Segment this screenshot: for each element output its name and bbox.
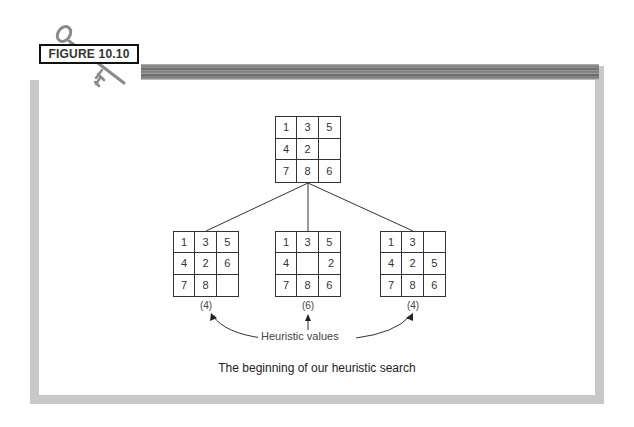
tile: 3 [297, 117, 318, 139]
tile-blank [297, 253, 318, 274]
tile: 2 [195, 253, 216, 274]
tile: 4 [276, 139, 297, 161]
tile-blank [424, 232, 445, 253]
puzzle-root: 1 3 5 4 2 7 8 6 [275, 116, 341, 183]
puzzle-child-middle: 1 3 5 4 2 7 8 6 [275, 231, 341, 297]
tile: 5 [424, 253, 445, 274]
heuristic-value-left: (4) [186, 300, 226, 311]
tile: 7 [276, 160, 297, 182]
tile: 1 [276, 232, 297, 253]
tile: 8 [195, 275, 216, 296]
tile: 4 [276, 253, 297, 274]
tile: 4 [174, 253, 195, 274]
tile: 3 [297, 232, 318, 253]
tile: 7 [381, 275, 402, 296]
tile: 8 [297, 160, 318, 182]
tile: 8 [297, 275, 318, 296]
tile: 4 [381, 253, 402, 274]
tile: 5 [217, 232, 238, 253]
heuristic-value-middle: (6) [288, 300, 328, 311]
tile: 6 [217, 253, 238, 274]
figure-label: FIGURE 10.10 [39, 44, 139, 64]
tile-blank [217, 275, 238, 296]
heuristic-value-right: (4) [393, 300, 433, 311]
tile: 5 [319, 232, 340, 253]
tile: 5 [319, 117, 340, 139]
tile: 6 [319, 275, 340, 296]
tile: 7 [174, 275, 195, 296]
tile: 2 [297, 139, 318, 161]
tile-blank [319, 139, 340, 161]
tile: 7 [276, 275, 297, 296]
tile: 3 [402, 232, 423, 253]
tile: 6 [319, 160, 340, 182]
tile: 3 [195, 232, 216, 253]
tile: 1 [276, 117, 297, 139]
tile: 8 [402, 275, 423, 296]
tile: 2 [319, 253, 340, 274]
puzzle-child-left: 1 3 5 4 2 6 7 8 [173, 231, 239, 297]
heuristic-values-label: Heuristic values [258, 330, 342, 342]
figure-caption: The beginning of our heuristic search [0, 361, 634, 375]
tile: 6 [424, 275, 445, 296]
tile: 1 [381, 232, 402, 253]
tile: 1 [174, 232, 195, 253]
tile: 2 [402, 253, 423, 274]
puzzle-child-right: 1 3 4 2 5 7 8 6 [380, 231, 446, 297]
